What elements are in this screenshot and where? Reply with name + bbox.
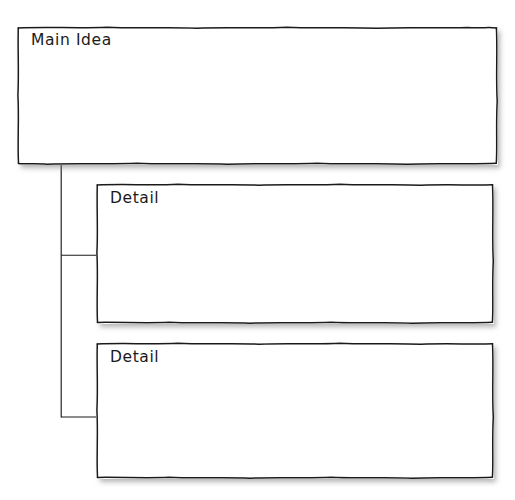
main-idea-label: Main Idea bbox=[31, 33, 112, 49]
detail-label-1: Detail bbox=[110, 191, 159, 207]
detail-label-2: Detail bbox=[110, 350, 159, 366]
graphic-organizer-canvas: Main Idea Detail Detail bbox=[0, 0, 515, 500]
